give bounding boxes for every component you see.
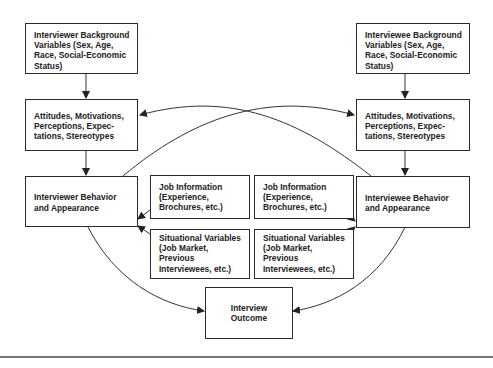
arrow-interviewee-behavior-to-interviewer-attitudes — [140, 106, 371, 176]
horizontal-rule — [0, 356, 493, 358]
interviewee-attitudes-box: Attitudes, Motivations, Perceptions, Exp… — [356, 99, 470, 151]
arrow-interviewer-behavior-to-interviewee-attitudes — [123, 106, 354, 176]
interviewer-background-box: Interviewer Background Variables (Sex, A… — [25, 23, 138, 74]
job-info-right-box: Job Information (Experience, Brochures, … — [254, 175, 354, 219]
situational-right-label: Situational Variables (Job Market, Previ… — [263, 233, 345, 274]
arrow-situational-left — [138, 226, 150, 234]
job-info-left-label: Job Information (Experience, Brochures, … — [159, 182, 223, 212]
interviewer-background-label: Interviewer Background Variables (Sex, A… — [34, 30, 129, 71]
interviewee-attitudes-label: Attitudes, Motivations, Perceptions, Exp… — [365, 111, 464, 142]
situational-right-box: Situational Variables (Job Market, Previ… — [254, 229, 354, 279]
situational-left-box: Situational Variables (Job Market, Previ… — [150, 229, 250, 279]
interview-outcome-box: Interview Outcome — [205, 287, 293, 339]
situational-left-label: Situational Variables (Job Market, Previ… — [159, 233, 241, 274]
interviewee-behavior-box: Interviewee Behavior and Appearance — [356, 176, 470, 228]
interviewer-attitudes-label: Attitudes, Motivations, Perceptions, Exp… — [34, 111, 132, 142]
arrow-job-info-left — [138, 210, 150, 219]
interviewee-background-label: Interviewee Background Variables (Sex, A… — [365, 30, 462, 71]
interviewer-behavior-box: Interviewer Behavior and Appearance — [25, 176, 138, 227]
job-info-right-label: Job Information (Experience, Brochures, … — [263, 182, 327, 212]
interviewer-behavior-label: Interviewer Behavior and Appearance — [34, 192, 132, 212]
interviewee-background-box: Interviewee Background Variables (Sex, A… — [356, 23, 470, 74]
interviewee-behavior-label: Interviewee Behavior and Appearance — [365, 193, 464, 213]
job-info-left-box: Job Information (Experience, Brochures, … — [150, 175, 250, 219]
interviewer-attitudes-box: Attitudes, Motivations, Perceptions, Exp… — [25, 99, 138, 151]
interview-outcome-label: Interview Outcome — [220, 303, 278, 323]
